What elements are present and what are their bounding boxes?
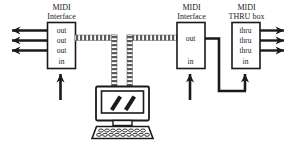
left-interface-out-arrows — [12, 31, 47, 51]
monitor-screen — [102, 91, 144, 113]
computer-icon — [92, 87, 153, 139]
left-interface-title-line2: Interface — [31, 12, 92, 22]
left-interface-port-out-3: out — [47, 47, 76, 55]
thru-box-port-thru-3: thru — [231, 47, 260, 55]
cable-left-interface-to-computer — [75, 35, 117, 87]
thru-box-port-thru-1: thru — [231, 27, 260, 35]
left-interface-port-in: in — [47, 58, 76, 66]
thru-box-out-arrows — [260, 31, 284, 51]
right-interface-title-line2: Interface — [161, 12, 222, 22]
right-interface-port-in: in — [176, 58, 205, 66]
thru-box-port-in: in — [231, 58, 260, 66]
left-interface-port-out-1: out — [47, 27, 76, 35]
cable-right-interface-to-computer — [127, 35, 177, 87]
thru-box-title-line2: THRU box — [216, 12, 277, 22]
thru-box-port-thru-2: thru — [231, 37, 260, 45]
monitor-neck — [113, 121, 132, 126]
left-interface-port-out-2: out — [47, 37, 76, 45]
right-interface-port-out: out — [176, 35, 205, 43]
midi-connection-diagram: MIDI Interface out out out in MIDI Inter… — [0, 0, 288, 143]
